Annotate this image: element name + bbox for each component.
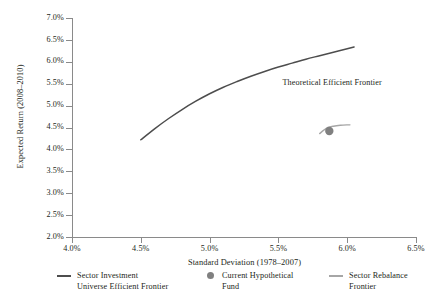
legend-label-line1: Sector Investment	[77, 271, 138, 280]
x-tick-mark	[278, 238, 279, 243]
y-tick-mark	[66, 40, 72, 41]
x-tick-label: 5.5%	[253, 245, 303, 253]
annotation-theoretical-efficient-frontier: Theoretical Efficient Frontier	[283, 78, 382, 87]
y-tick-label: 4.5%	[24, 123, 64, 131]
y-axis-line	[72, 18, 73, 238]
chart-legend: Sector Investment Universe Efficient Fro…	[0, 271, 431, 303]
legend-label-line1: Sector Rebalance	[349, 271, 408, 280]
y-tick-label: 6.5%	[24, 36, 64, 44]
x-tick-mark	[347, 238, 348, 243]
series-line-sector-rebalance-frontier	[320, 125, 350, 134]
y-tick-label: 4.0%	[24, 145, 64, 153]
x-tick-mark	[72, 238, 73, 243]
x-axis-title: Standard Deviation (1978–2007)	[72, 258, 417, 267]
x-tick-mark	[141, 238, 142, 243]
y-tick-label: 6.0%	[24, 57, 64, 65]
legend-label: Sector Rebalance Frontier	[349, 271, 408, 292]
legend-label: Sector Investment Universe Efficient Fro…	[77, 271, 168, 292]
y-tick-mark	[66, 106, 72, 107]
legend-item-sector-investment-universe: Sector Investment Universe Efficient Fro…	[57, 271, 168, 292]
legend-label: Current Hypothetical Fund	[222, 271, 293, 292]
x-tick-label: 6.0%	[322, 245, 372, 253]
x-axis-line	[72, 237, 417, 238]
y-tick-mark	[66, 193, 72, 194]
y-axis-title: Expected Return (2008–2010)	[16, 37, 25, 197]
y-tick-mark	[66, 128, 72, 129]
y-tick-label: 2.0%	[24, 233, 64, 241]
legend-dot-marker-icon	[207, 272, 214, 279]
legend-item-sector-rebalance-frontier: Sector Rebalance Frontier	[329, 271, 408, 292]
x-tick-label: 6.5%	[391, 245, 431, 253]
y-tick-label: 3.5%	[24, 167, 64, 175]
legend-line-marker-icon	[57, 275, 71, 277]
legend-label-line2: Frontier	[349, 282, 376, 291]
legend-label-line2: Universe Efficient Frontier	[77, 282, 168, 291]
y-tick-mark	[66, 84, 72, 85]
y-tick-mark	[66, 149, 72, 150]
y-tick-label: 3.0%	[24, 189, 64, 197]
y-tick-label: 5.5%	[24, 79, 64, 87]
data-point-current-hypothetical-fund	[325, 127, 333, 135]
x-tick-mark	[416, 238, 417, 243]
y-tick-mark	[66, 18, 72, 19]
y-tick-mark	[66, 62, 72, 63]
x-tick-label: 5.0%	[185, 245, 235, 253]
efficient-frontier-chart: 2.0%2.5%3.0%3.5%4.0%4.5%5.0%5.5%6.0%6.5%…	[0, 0, 431, 306]
x-tick-label: 4.5%	[116, 245, 166, 253]
legend-item-current-hypothetical-fund: Current Hypothetical Fund	[203, 271, 293, 292]
legend-line-marker-icon	[329, 275, 343, 277]
legend-label-line1: Current Hypothetical	[222, 271, 293, 280]
y-tick-label: 5.0%	[24, 101, 64, 109]
x-tick-mark	[210, 238, 211, 243]
series-line-sector-investment-universe-efficient-frontier	[141, 47, 354, 140]
y-tick-mark	[66, 215, 72, 216]
legend-label-line2: Fund	[222, 282, 239, 291]
y-tick-mark	[66, 171, 72, 172]
x-tick-label: 4.0%	[47, 245, 97, 253]
y-tick-label: 2.5%	[24, 211, 64, 219]
y-tick-label: 7.0%	[24, 14, 64, 22]
